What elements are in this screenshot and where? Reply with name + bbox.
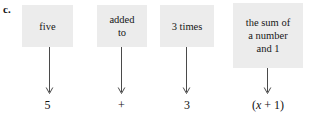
symbol-text-4: (x + 1)	[252, 98, 284, 112]
translation-column-4: the sum of a number and 1 (x + 1)	[0, 0, 309, 120]
phrase-box-4: the sum of a number and 1	[233, 3, 303, 68]
down-arrow-icon-4	[260, 68, 276, 95]
phrase-text-4: the sum of a number and 1	[236, 16, 300, 55]
symbol-4: (x + 1)	[233, 98, 303, 112]
word-phrase-translation-diagram: c. five 5 added to + 3 times	[0, 0, 309, 120]
